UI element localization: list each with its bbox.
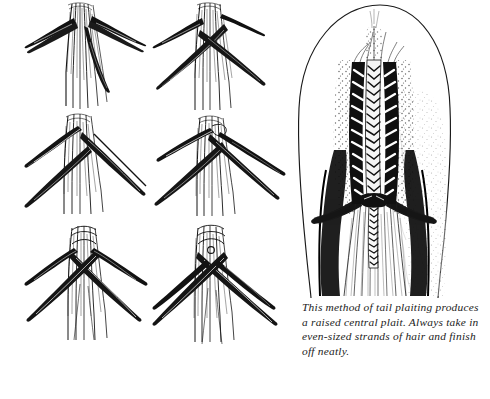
figure-caption: This method of tail plaiting produces a …	[302, 300, 486, 358]
right-flat-strand	[214, 260, 275, 310]
caption-line-4: off neatly.	[302, 344, 486, 359]
plait-tail-continuation	[368, 204, 378, 268]
step-diagram-5	[22, 224, 156, 342]
step-diagram-3	[22, 112, 154, 216]
finished-tail-illustration	[268, 0, 490, 300]
lower-left-strand	[25, 146, 92, 208]
long-lower-left	[155, 142, 226, 206]
step-diagram-grid	[0, 0, 300, 345]
step-diagram-2	[152, 2, 287, 112]
right-strand	[88, 16, 146, 52]
plait-bound-base	[359, 193, 389, 208]
caption-line-1: This method of tail plaiting produces	[302, 300, 486, 315]
centre-strand	[84, 26, 110, 93]
plait-central-core	[366, 60, 382, 202]
step-diagram-1	[22, 2, 152, 110]
left-strand	[25, 18, 78, 53]
right-strand-upper	[220, 14, 265, 36]
top-stipple	[366, 26, 382, 58]
caption-line-2: a raised central plait. Always take in	[302, 315, 486, 330]
tail-dock-hair	[66, 3, 107, 109]
top-wisps	[370, 9, 379, 28]
plait-loops	[197, 225, 225, 253]
illustration-page: This method of tail plaiting produces a …	[0, 0, 490, 399]
dock-crown	[197, 3, 221, 10]
caption-line-3: even-sized strands of hair and finish	[302, 329, 486, 344]
upper-left-band	[157, 128, 214, 162]
